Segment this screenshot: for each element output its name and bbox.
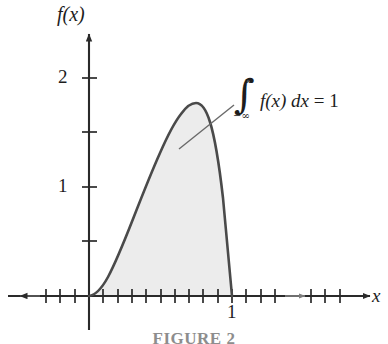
y-axis-label: f(x) — [57, 4, 85, 24]
integral-upper-limit: ∞ — [244, 76, 252, 86]
y-tick-label-2: 2 — [58, 67, 68, 86]
integral-equals-text: = 1 — [314, 90, 339, 111]
shaded-area-under-curve — [89, 103, 232, 296]
integral-lower-limit: −∞ — [233, 111, 250, 121]
plot-canvas — [0, 0, 388, 344]
figure-caption: FIGURE 2 — [0, 329, 388, 344]
integrand-text: f(x) dx — [260, 90, 309, 111]
integral-sign-group: ∫ ∞ −∞ — [235, 78, 250, 122]
figure-container: f(x) x 2 1 1 ∫ ∞ −∞ f(x) dx = 1 FIGURE 2 — [0, 0, 388, 344]
y-tick-label-1: 1 — [58, 176, 68, 195]
integral-body: f(x) dx = 1 — [260, 91, 339, 110]
x-tick-label-1: 1 — [227, 302, 237, 321]
x-axis-label: x — [372, 286, 380, 305]
integral-annotation: ∫ ∞ −∞ f(x) dx = 1 — [235, 78, 339, 122]
